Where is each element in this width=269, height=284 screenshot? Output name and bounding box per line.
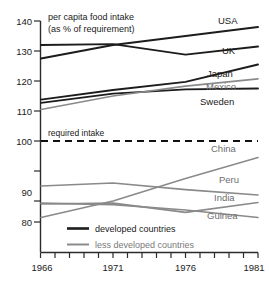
series-label-usa: USA xyxy=(218,15,238,26)
x-tick-label-1981: 1981 xyxy=(243,262,264,273)
series-label-china: China xyxy=(211,143,237,154)
chart-subtitle: (as % of requirement) xyxy=(48,24,135,34)
legend-label-developed: developed countries xyxy=(95,224,176,234)
series-label-peru: Peru xyxy=(219,174,239,185)
y-tick-label-110: 110 xyxy=(17,106,32,117)
x-tick-marks xyxy=(41,253,259,259)
legend-label-less-developed: less developed countries xyxy=(95,240,195,250)
series-label-japan: Japan xyxy=(207,68,233,79)
series-label-sweden: Sweden xyxy=(200,96,234,107)
x-tick-label-1976: 1976 xyxy=(175,262,196,273)
y-tick-marks xyxy=(34,21,41,222)
y-tick-label-80: 80 xyxy=(21,217,32,228)
legend: developed countries less developed count… xyxy=(67,224,195,250)
y-tick-label-100: 100 xyxy=(16,136,32,147)
y-tick-label-130: 130 xyxy=(16,46,32,57)
y-tick-label-140: 140 xyxy=(16,16,32,27)
required-intake-label: required intake xyxy=(48,128,105,138)
food-intake-line-chart: per capita food intake (as % of requirem… xyxy=(0,0,269,284)
series-label-uk: UK xyxy=(222,45,236,56)
x-tick-label-1966: 1966 xyxy=(31,262,52,273)
x-tick-label-1971: 1971 xyxy=(102,262,123,273)
series-label-mexico: Mexico xyxy=(206,81,236,92)
chart-title: per capita food intake xyxy=(48,12,134,22)
y-tick-label-120: 120 xyxy=(16,76,32,87)
series-label-guinea: Guinea xyxy=(207,210,238,221)
chart-container: per capita food intake (as % of requirem… xyxy=(0,0,269,284)
series-label-india: India xyxy=(214,192,235,203)
y-tick-label-90: 90 xyxy=(21,187,32,198)
